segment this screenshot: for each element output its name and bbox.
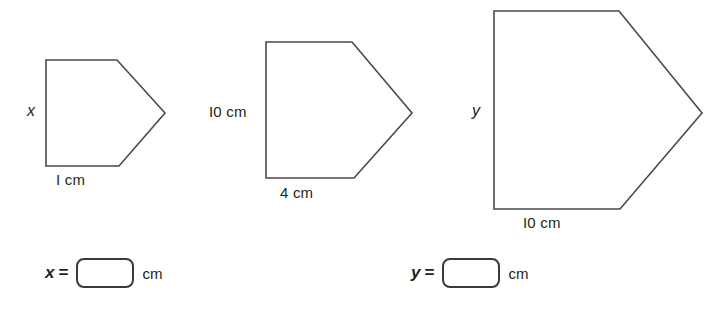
small-pentagon-outline [46,60,165,166]
answer-y-unit: cm [508,265,528,282]
answer-x-unit: cm [142,265,162,282]
small-pentagon-base-label: I cm [56,172,85,187]
large-pentagon-base-label: I0 cm [523,215,561,230]
small-pentagon-side-label: x [27,103,35,119]
answer-row-y: y = cm [411,258,528,288]
answer-y-variable: y [411,263,420,283]
medium-pentagon-outline [266,42,412,178]
answer-x-equals: = [58,263,68,283]
medium-pentagon-side-label: I0 cm [209,104,247,119]
answer-x-variable: x [45,263,54,283]
answer-y-input[interactable] [442,258,500,288]
large-pentagon-outline [494,11,702,209]
worksheet-canvas: x I cm I0 cm 4 cm y I0 cm x = cm y = cm [0,0,725,318]
medium-pentagon-base-label: 4 cm [280,185,313,200]
large-pentagon-side-label: y [472,103,480,119]
answer-y-equals: = [424,263,434,283]
answer-x-input[interactable] [76,258,134,288]
answer-row-x: x = cm [45,258,162,288]
